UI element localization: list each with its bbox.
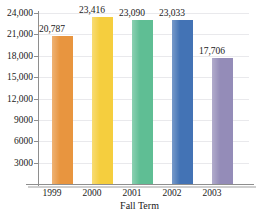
bar-2000[interactable] [92, 17, 113, 184]
bar-fill [172, 20, 193, 184]
x-axis-line [26, 184, 254, 185]
x-tick-label-2000: 2000 [72, 188, 112, 199]
y-tick-label: 3000 [14, 158, 33, 168]
bar-value-label-2003: 17,706 [192, 46, 232, 56]
y-tick-label: 24,000 [7, 8, 33, 18]
x-tick-label-1999: 1999 [32, 188, 72, 199]
bar-fill [92, 17, 113, 184]
y-tick-label: 6000 [14, 136, 33, 146]
bar-2001[interactable] [132, 20, 153, 185]
bar-1999[interactable] [52, 36, 73, 184]
bar-2003[interactable] [212, 58, 233, 184]
bar-value-label-1999: 20,787 [32, 24, 72, 34]
bar-chart: 24,000 21,000 18,000 15,000 12,000 9000 … [0, 0, 257, 217]
y-tick-label: 21,000 [7, 29, 33, 39]
bar-fill [52, 36, 73, 184]
x-tick-label-2002: 2002 [152, 188, 192, 199]
bars-group [39, 13, 249, 184]
bar-fill [132, 20, 153, 185]
bar-value-label-2000: 23,416 [72, 5, 112, 15]
bar-highlight [172, 20, 180, 184]
x-tick-label-2001: 2001 [112, 188, 152, 199]
bar-2002[interactable] [172, 20, 193, 184]
y-tick-label: 15,000 [7, 72, 33, 82]
y-tick-label: 9000 [14, 115, 33, 125]
y-axis-labels: 24,000 21,000 18,000 15,000 12,000 9000 … [0, 0, 33, 217]
bar-fill [212, 58, 233, 184]
y-tick-label: 18,000 [7, 51, 33, 61]
bar-value-label-2002: 23,033 [152, 8, 192, 18]
x-tick-label-2003: 2003 [192, 188, 232, 199]
bar-highlight [212, 58, 220, 184]
x-axis-title: Fall Term [0, 200, 257, 211]
bar-value-label-2001: 23,090 [112, 8, 152, 18]
bar-highlight [52, 36, 60, 184]
bar-highlight [92, 17, 100, 184]
y-tick-label: 12,000 [7, 94, 33, 104]
bar-highlight [132, 20, 140, 185]
